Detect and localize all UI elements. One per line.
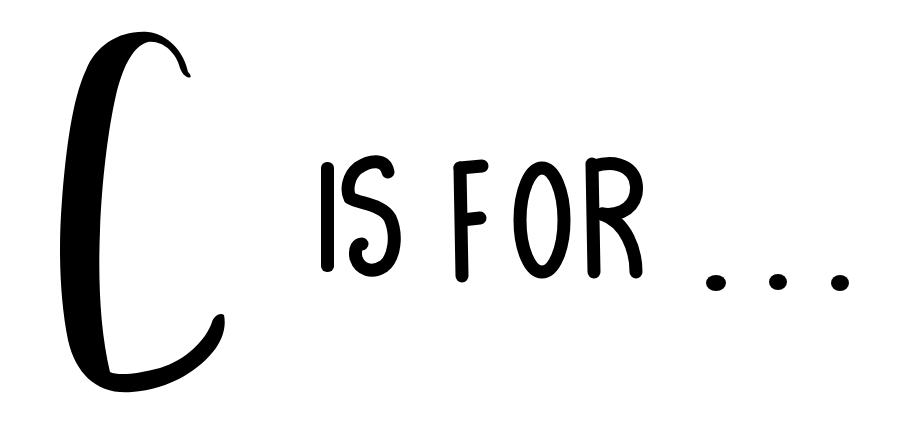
letter-i (321, 162, 334, 272)
letter-o (520, 168, 564, 272)
letter-c (60, 32, 225, 392)
ellipsis-dots (706, 274, 849, 291)
letter-f (460, 166, 482, 276)
letter-r (592, 164, 637, 272)
letter-s (348, 162, 394, 270)
hand-lettered-artwork: C IS FOR ... (0, 0, 913, 427)
